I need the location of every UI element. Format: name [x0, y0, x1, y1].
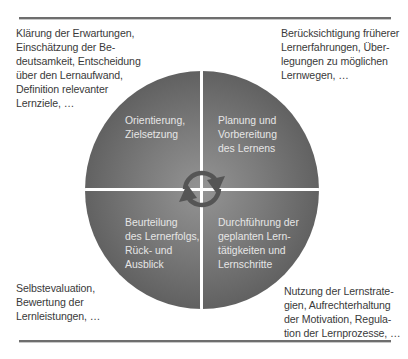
quadrant-execution: Durchführung der geplanten Lern- tätigke…: [218, 216, 299, 272]
quadrant-line: Durchführung der: [218, 216, 299, 230]
quadrant-line: geplanten Lern-: [218, 230, 299, 244]
note-line: Berücksichtigung früherer: [281, 26, 399, 40]
bottom-rule: [19, 340, 391, 343]
note-line: tion der Lernprozesse, …: [284, 326, 401, 340]
note-line: legungen zu möglichen: [281, 54, 399, 68]
note-line: Definition relevanter: [16, 82, 141, 96]
quadrant-line: Ausblick: [125, 258, 200, 272]
circular-arrows-icon: [173, 163, 231, 215]
quadrant-planning: Planung und Vorbereitung des Lernens: [218, 114, 277, 156]
note-line: deutsamkeit, Entscheidung: [16, 54, 141, 68]
quadrant-line: Vorbereitung: [218, 128, 277, 142]
quadrant-line: Rück- und: [125, 244, 200, 258]
cycle-circle: Orientierung, Zielsetzung Planung und Vo…: [85, 71, 319, 309]
note-line: der Motivation, Regula-: [284, 312, 401, 326]
top-rule: [19, 17, 391, 20]
note-orientation: Klärung der Erwartungen, Einschätzung de…: [16, 26, 141, 110]
quadrant-line: des Lernens: [218, 142, 277, 156]
note-line: Nutzung der Lernstrate-: [284, 284, 401, 298]
quadrant-line: Planung und: [218, 114, 277, 128]
quadrant-line: Zielsetzung: [125, 128, 185, 142]
quadrant-line: des Lernerfolgs,: [125, 230, 200, 244]
quadrant-line: tätigkeiten und: [218, 244, 299, 258]
quadrant-line: Lernschritte: [218, 258, 299, 272]
quadrant-orientation: Orientierung, Zielsetzung: [125, 114, 185, 142]
note-line: Einschätzung der Be-: [16, 40, 141, 54]
note-line: Lernwegen, …: [281, 68, 399, 82]
note-line: gien, Aufrechterhaltung: [284, 298, 401, 312]
quadrant-line: Beurteilung: [125, 216, 200, 230]
note-line: Klärung der Erwartungen,: [16, 26, 141, 40]
note-line: Lernleistungen, …: [16, 309, 100, 323]
note-execution: Nutzung der Lernstrate- gien, Aufrechter…: [284, 284, 401, 340]
note-line: über den Lernaufwand,: [16, 68, 141, 82]
note-line: Lernerfahrungen, Über-: [281, 40, 399, 54]
note-evaluation: Selbstevaluation, Bewertung der Lernleis…: [16, 281, 100, 323]
note-line: Bewertung der: [16, 295, 100, 309]
quadrant-line: Orientierung,: [125, 114, 185, 128]
note-planning: Berücksichtigung früherer Lernerfahrunge…: [281, 26, 399, 82]
note-line: Selbstevaluation,: [16, 281, 100, 295]
quadrant-evaluation: Beurteilung des Lernerfolgs, Rück- und A…: [125, 216, 200, 272]
